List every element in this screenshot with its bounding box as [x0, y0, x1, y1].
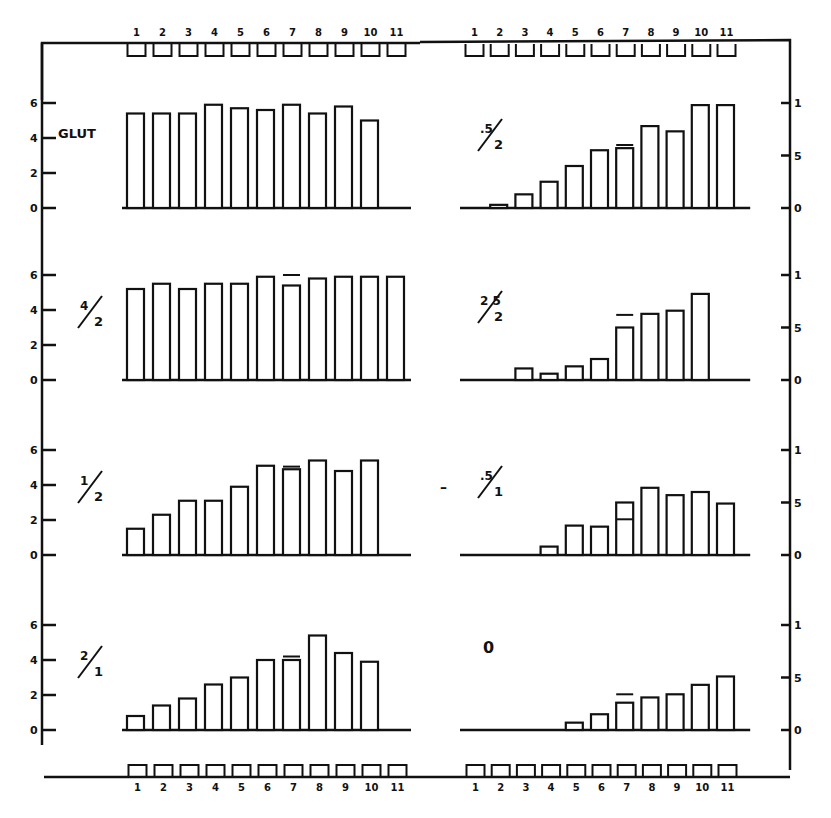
- panel-label-denominator: 2: [94, 489, 103, 504]
- bottom-category-label: 11: [721, 782, 735, 793]
- bottom-box: [389, 765, 407, 776]
- left-tick-label: 2: [30, 339, 38, 352]
- panel-r1_2: 12: [78, 461, 411, 556]
- bottom-box: [593, 765, 611, 776]
- left-tick-label: 0: [30, 374, 38, 387]
- bar-2: [490, 205, 507, 208]
- bar-7: [283, 660, 300, 730]
- bar-4: [205, 501, 222, 555]
- bottom-category-boxes: [129, 765, 737, 776]
- top-category-label: 7: [289, 27, 296, 38]
- panel-r25_2: 2 52: [460, 291, 750, 380]
- left-tick-label: 0: [30, 202, 38, 215]
- bottom-category-label: 7: [623, 782, 630, 793]
- panel-label: GLUT: [58, 126, 96, 141]
- panel-glut: GLUT: [58, 105, 411, 208]
- bottom-box: [693, 765, 711, 776]
- top-box: [154, 44, 172, 56]
- bar-6: [591, 150, 608, 208]
- left-tick-label: 2: [30, 514, 38, 527]
- top-category-label: 11: [390, 27, 404, 38]
- bar-5: [231, 487, 248, 555]
- bar-chart-grid: 12345678910111234567891011 1234567891011…: [0, 0, 831, 818]
- bottom-box: [668, 765, 686, 776]
- bottom-category-label: 6: [598, 782, 605, 793]
- bar-1: [127, 289, 144, 380]
- right-tick-label: 5: [794, 150, 802, 163]
- top-category-label: 5: [572, 27, 579, 38]
- bottom-category-label: 9: [342, 782, 349, 793]
- left-tick-label: 0: [30, 549, 38, 562]
- panel-label-numerator: 2: [80, 649, 88, 663]
- panel-label-numerator: 1: [80, 474, 88, 488]
- left-tick-label: 4: [30, 654, 38, 667]
- bar-4: [541, 182, 558, 208]
- top-category-label: 6: [597, 27, 604, 38]
- bar-8: [309, 636, 326, 731]
- bottom-box: [285, 765, 303, 776]
- bar-1: [127, 114, 144, 209]
- bottom-box: [181, 765, 199, 776]
- bottom-category-label: 2: [160, 782, 167, 793]
- bar-11: [717, 105, 734, 208]
- bar-7: [283, 105, 300, 208]
- bottom-category-label: 5: [573, 782, 580, 793]
- figure: 12345678910111234567891011 1234567891011…: [0, 0, 831, 818]
- bottom-category-label: 1: [134, 782, 141, 793]
- bar-7: [616, 503, 633, 556]
- top-category-label: 9: [673, 27, 680, 38]
- bottom-category-label: 9: [674, 782, 681, 793]
- bar-8: [641, 126, 658, 208]
- bar-10: [692, 492, 709, 555]
- top-category-label: 7: [622, 27, 629, 38]
- top-box: [516, 44, 534, 56]
- bar-2: [153, 515, 170, 555]
- top-category-label: 5: [237, 27, 244, 38]
- bottom-category-label: 4: [212, 782, 219, 793]
- bar-2: [153, 706, 170, 731]
- bottom-category-label: 8: [316, 782, 323, 793]
- bar-10: [361, 461, 378, 556]
- panel-label-denominator: 2: [94, 314, 103, 329]
- bar-3: [179, 114, 196, 209]
- top-category-label: 1: [133, 27, 140, 38]
- bottom-box: [542, 765, 560, 776]
- bar-9: [335, 653, 352, 730]
- bar-10: [361, 662, 378, 730]
- bar-6: [591, 527, 608, 555]
- top-category-label: 4: [547, 27, 554, 38]
- top-category-label: 10: [364, 27, 378, 38]
- bottom-category-label: 1: [472, 782, 479, 793]
- top-box: [362, 44, 380, 56]
- bottom-category-label: 5: [238, 782, 245, 793]
- bar-10: [692, 685, 709, 730]
- right-tick-label: 5: [794, 322, 802, 335]
- top-box: [466, 44, 484, 56]
- right-tick-label: 1: [794, 97, 802, 110]
- panel-r2_1: 21: [78, 636, 411, 731]
- bar-8: [641, 697, 658, 730]
- bottom-category-label: 11: [391, 782, 405, 793]
- top-box: [388, 44, 406, 56]
- top-box: [180, 44, 198, 56]
- top-category-label: 8: [315, 27, 322, 38]
- bar-7: [616, 703, 633, 730]
- left-tick-label: 4: [30, 479, 38, 492]
- top-category-boxes: [128, 44, 736, 56]
- bar-7: [616, 328, 633, 381]
- bar-7: [616, 148, 633, 208]
- bar-11: [717, 676, 734, 730]
- bottom-category-label: 2: [497, 782, 504, 793]
- bottom-box: [643, 765, 661, 776]
- right-tick-label: 0: [794, 549, 802, 562]
- bar-7: [283, 286, 300, 381]
- panel-label-numerator: 4: [80, 299, 88, 313]
- bar-10: [361, 121, 378, 209]
- bottom-box: [207, 765, 225, 776]
- top-category-label: 10: [694, 27, 708, 38]
- top-category-label: 3: [185, 27, 192, 38]
- bottom-box: [259, 765, 277, 776]
- bottom-box: [129, 765, 147, 776]
- bar-4: [205, 105, 222, 208]
- bar-9: [667, 311, 684, 380]
